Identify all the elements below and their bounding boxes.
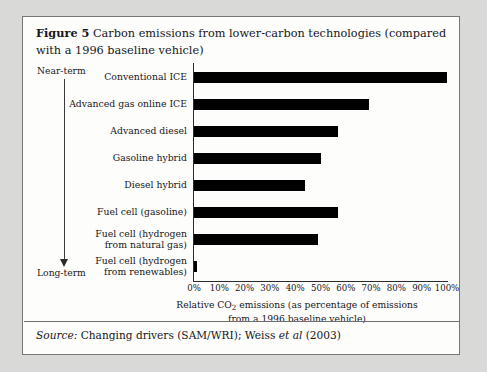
bar-row: Advanced diesel	[127, 121, 457, 148]
x-tick-label: 0%	[187, 283, 201, 293]
x-tick-label: 20%	[235, 283, 254, 293]
bar	[194, 180, 305, 191]
x-tick-label: 50%	[311, 283, 330, 293]
category-label: Gasoline hybrid	[27, 153, 187, 164]
x-tick-label: 60%	[336, 283, 355, 293]
source-prefix: Source:	[36, 329, 77, 341]
x-axis-ticks: 0%10%20%30%40%50%60%70%80%90%100%	[193, 283, 451, 297]
source-text-after: (2003)	[306, 329, 341, 341]
bar-row: Fuel cell (hydrogen from renewables)	[127, 256, 457, 283]
bar-row: Gasoline hybrid	[127, 148, 457, 175]
figure-label: Figure 5	[36, 26, 89, 40]
category-label: Conventional ICE	[27, 72, 187, 83]
x-axis-title-line1: Relative CO2 emissions (as percentage of…	[176, 299, 417, 310]
category-label: Fuel cell (gasoline)	[27, 207, 187, 218]
figure-caption-text: Carbon emissions from lower-carbon techn…	[36, 27, 446, 57]
x-axis-title-line2: from a 1996 baseline vehicle)	[228, 313, 366, 324]
x-tick-label: 30%	[260, 283, 279, 293]
figure-panel: Figure 5 Carbon emissions from lower-car…	[22, 16, 460, 355]
x-tick-label: 90%	[412, 283, 431, 293]
category-label: Fuel cell (hydrogen from natural gas)	[27, 229, 187, 250]
category-label: Diesel hybrid	[27, 180, 187, 191]
bar-row: Fuel cell (hydrogen from natural gas)	[127, 229, 457, 256]
x-tick-label: 80%	[387, 283, 406, 293]
bar	[194, 234, 318, 245]
bar-row: Diesel hybrid	[127, 175, 457, 202]
bar	[194, 126, 338, 137]
source-divider	[24, 321, 460, 322]
bar	[194, 261, 197, 272]
category-label: Advanced diesel	[27, 126, 187, 137]
x-tick-label: 100%	[435, 283, 460, 293]
bar	[194, 99, 369, 110]
x-tick-label: 10%	[210, 283, 229, 293]
category-label: Advanced gas online ICE	[27, 99, 187, 110]
bar-chart: Conventional ICEAdvanced gas online ICEA…	[127, 61, 457, 311]
bar-row: Fuel cell (gasoline)	[127, 202, 457, 229]
bar-row: Advanced gas online ICE	[127, 94, 457, 121]
x-tick-label: 70%	[362, 283, 381, 293]
source-note: Source: Changing drivers (SAM/WRI); Weis…	[36, 329, 341, 341]
x-tick-label: 40%	[286, 283, 305, 293]
bar	[194, 72, 447, 83]
source-text-before: Changing drivers (SAM/WRI); Weiss	[81, 329, 276, 341]
source-etal: et al	[279, 329, 303, 341]
bar	[194, 207, 338, 218]
bar	[194, 153, 321, 164]
figure-caption: Figure 5 Carbon emissions from lower-car…	[36, 25, 448, 59]
category-label: Fuel cell (hydrogen from renewables)	[27, 256, 187, 277]
bar-row: Conventional ICE	[127, 67, 457, 94]
chart-plot-area: Near-term Long-term Conventional ICEAdva…	[23, 61, 461, 311]
